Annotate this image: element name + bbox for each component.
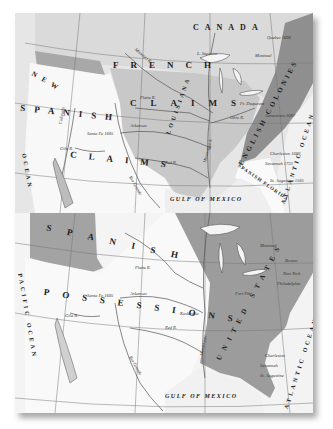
river-label-arkansas: Arkansas [130,123,147,128]
map-us-1783: SPANISH POSSESSIONS UNITED STATES GULF O… [15,213,313,413]
river-label-ohio: Ohio R. [230,115,244,120]
river-label-platte: Platte R. [135,265,151,270]
place-montreal: Montreal [255,53,272,58]
place-st-augustine: St. Augustine 1565 [270,178,304,183]
river-label-platte: Platte R. [140,95,156,100]
place-lake-superior: L. Superior [197,51,218,56]
place-philadelphia: Philadelphia [277,281,300,286]
map-colonial-claims: CANADA FRENCH CLAIMS LOUISIANA NEW SPANI… [15,13,313,213]
place-santa-fe: Santa Fe 1605 [87,293,113,298]
river-label-arkansas: Arkansas [130,291,147,296]
label-french: FRENCH [113,60,223,70]
place-savannah: Savannah 1733 [265,161,293,166]
place-fort-pitt: Fort Pitt [235,291,251,296]
place-charleston: Charleston 1680 [270,151,300,156]
map-sheet: CANADA FRENCH CLAIMS LOUISIANA NEW SPANI… [15,13,313,413]
river-label-gila: Gila R. [65,313,78,318]
place-st-augustine: St. Augustine [260,373,284,378]
label-gulf-of-mexico: GULF OF MEXICO [165,393,237,399]
place-montreal: Montreal [260,243,277,248]
river-label-red: Red R. [165,160,177,165]
river-label-red: Red R. [165,325,177,330]
place-ft-duquesne: Ft. Duquesne [240,101,264,106]
place-charleston: Charleston [265,353,285,358]
place-new-york: New York [283,271,300,276]
place-kaskaskia: Kaskaskia [180,311,199,316]
place-boston: Boston [285,258,298,263]
river-label-gila: Gila R. [60,146,73,151]
place-quebec: Quebec 1608 [267,35,291,40]
place-savannah: Savannah [260,363,278,368]
place-santa-fe: Santa Fe 1605 [87,131,113,136]
label-canada: CANADA [193,23,264,32]
label-gulf-of-mexico: GULF OF MEXICO [170,196,242,202]
place-jamestown: Jamestown 1607 [265,113,295,118]
